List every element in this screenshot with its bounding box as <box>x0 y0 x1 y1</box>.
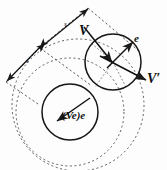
label-vector-e: e <box>134 33 139 44</box>
dashed-circle-large <box>12 39 144 170</box>
label-vector-V: V <box>79 24 88 38</box>
label-vector-Vee: (Ve)e <box>62 110 85 121</box>
label-separation-s-lower: s <box>26 58 29 65</box>
vector-e-arrow <box>107 42 133 68</box>
dimension-arrow-s-lower <box>7 47 40 81</box>
label-separation-s-upper: s <box>64 21 67 28</box>
collision-vector-diagram: V V′ e (Ve)e s s <box>0 0 167 170</box>
vector-V-prime-arrow <box>100 56 146 80</box>
label-vector-V-prime: V′ <box>147 72 160 86</box>
